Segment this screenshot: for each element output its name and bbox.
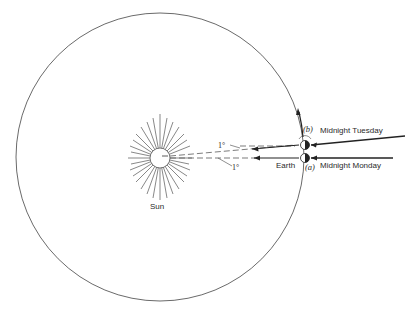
position-a-label: (a): [305, 162, 315, 172]
position-b-label: (b): [303, 124, 313, 134]
midnight-monday-label: Midnight Monday: [320, 161, 381, 170]
sunlight-line-b: [311, 136, 405, 145]
earth-b-icon: [299, 136, 311, 150]
orbit-diagram: Sun 1° 1° (b): [0, 0, 405, 312]
angle-label-bottom: 1°: [232, 163, 239, 172]
angle-label-top: 1°: [218, 141, 225, 150]
sun-disk: [150, 148, 170, 168]
sun-label: Sun: [150, 202, 164, 211]
diagram-canvas: Sun 1° 1° (b): [0, 0, 405, 312]
earth-label: Earth: [276, 161, 295, 170]
midnight-tuesday-label: Midnight Tuesday: [320, 126, 383, 135]
